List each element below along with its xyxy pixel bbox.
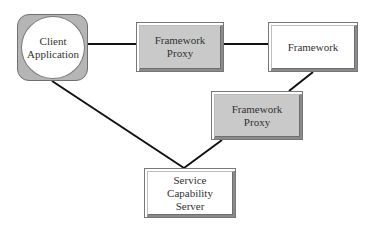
service-capability-server-label: Service Capability Server [167,174,213,213]
framework-proxy-node-1: Framework Proxy [136,22,224,72]
service-capability-server-node: Service Capability Server [144,168,236,218]
edge-proxy2-server [184,140,222,168]
edge-client-server [52,81,184,168]
client-application-label: Client Application [27,35,79,61]
framework-label: Framework [288,41,339,54]
client-application-circle: Client Application [21,16,85,79]
framework-proxy-label-2: Framework Proxy [232,103,283,129]
framework-proxy-label-1: Framework Proxy [155,34,206,60]
architecture-diagram: Client Application Framework Proxy Frame… [0,0,374,230]
framework-node: Framework [268,22,358,72]
edge-framework-proxy2 [289,72,313,91]
framework-proxy-node-2: Framework Proxy [211,91,303,140]
